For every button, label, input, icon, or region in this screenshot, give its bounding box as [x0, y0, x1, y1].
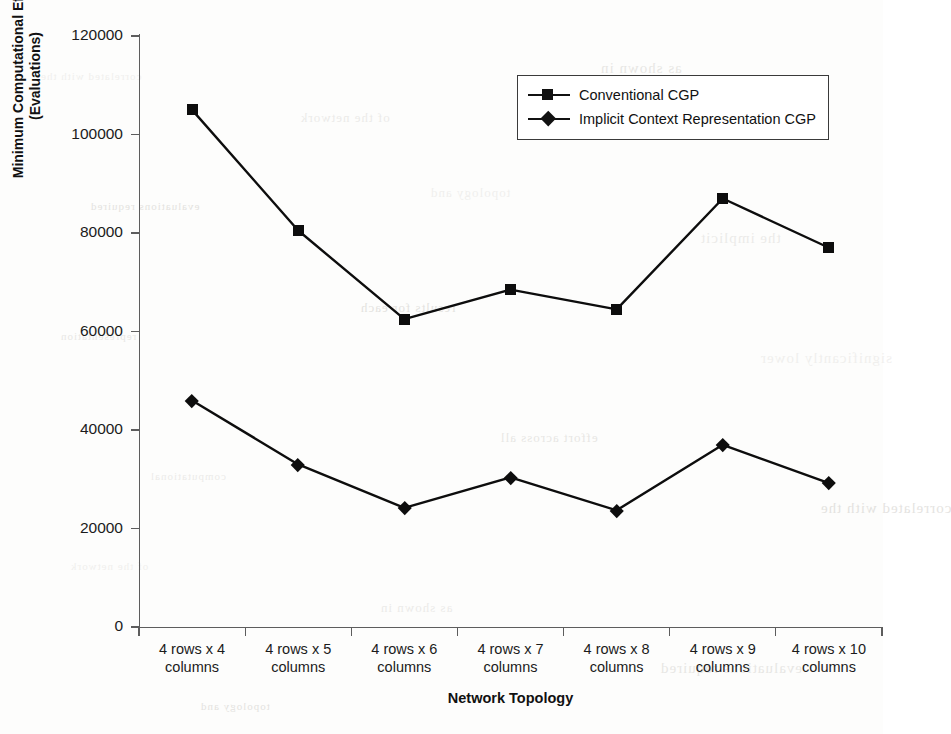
data-point-marker [717, 193, 728, 204]
data-point-marker [399, 314, 410, 325]
square-marker-icon [528, 88, 570, 102]
data-point-marker [505, 284, 516, 295]
data-point-marker [187, 104, 198, 115]
data-point-marker [293, 225, 304, 236]
y-axis-title: Minimum Computational Effort (Evaluation… [10, 0, 44, 206]
legend-label-implicit-context-representation-cgp: Implicit Context Representation CGP [579, 111, 816, 127]
chart-legend: Conventional CGP Implicit Context Repres… [517, 75, 829, 140]
x-axis-title: Network Topology [139, 690, 882, 706]
series-line-implicit-context-representation-cgp [192, 400, 829, 510]
data-point-marker [823, 242, 834, 253]
legend-label-conventional-cgp: Conventional CGP [579, 87, 699, 103]
y-axis-title-line2: (Evaluations) [27, 0, 44, 206]
diamond-marker-icon [528, 112, 570, 126]
legend-entry-conventional-cgp: Conventional CGP [528, 83, 816, 107]
y-axis-title-line1: Minimum Computational Effort [10, 0, 27, 206]
legend-entry-implicit-context-representation-cgp: Implicit Context Representation CGP [528, 107, 816, 131]
data-point-marker [611, 304, 622, 315]
